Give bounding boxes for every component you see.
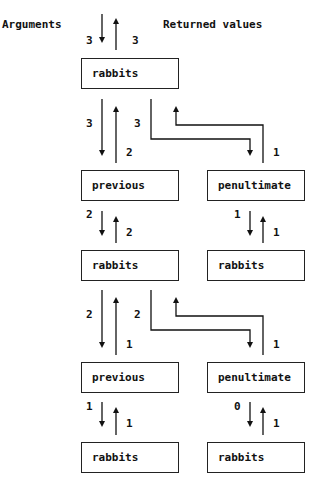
rabbits-box: rabbits [207, 442, 305, 473]
argument-value: 2 [86, 308, 93, 321]
rabbits-box: rabbits [81, 58, 179, 89]
return-value: 1 [273, 226, 280, 239]
argument-value: 1 [86, 400, 93, 413]
argument-value: 2 [134, 308, 141, 321]
argument-value: 3 [134, 117, 141, 130]
return-value: 1 [126, 417, 133, 430]
return-value: 1 [273, 338, 280, 351]
argument-value: 3 [86, 117, 93, 130]
penultimate-box: penultimate [207, 362, 305, 393]
rabbits-box: rabbits [207, 250, 305, 281]
argument-value: 0 [234, 400, 241, 413]
argument-value: 3 [86, 34, 93, 47]
return-value: 3 [132, 34, 139, 47]
previous-box: previous [81, 170, 179, 201]
return-value: 1 [126, 338, 133, 351]
return-value: 2 [126, 146, 133, 159]
rabbits-box: rabbits [81, 442, 179, 473]
argument-value: 1 [234, 208, 241, 221]
return-value: 1 [273, 417, 280, 430]
penultimate-box: penultimate [207, 170, 305, 201]
argument-value: 2 [86, 208, 93, 221]
return-value: 2 [126, 226, 133, 239]
return-value: 1 [273, 146, 280, 159]
previous-box: previous [81, 362, 179, 393]
rabbits-box: rabbits [81, 250, 179, 281]
